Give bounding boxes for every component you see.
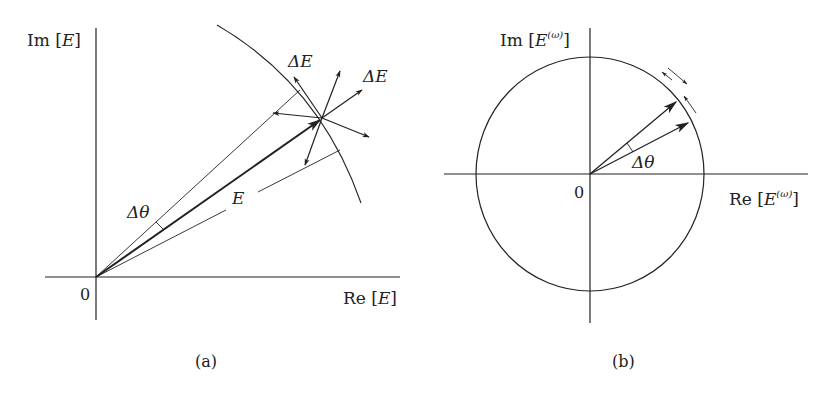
delta-arrow-left: [273, 113, 322, 118]
y-axis-label: Im [E]: [27, 30, 81, 50]
angle-mark: [156, 222, 163, 229]
angle-mark: [627, 143, 633, 152]
E-label: E: [231, 188, 245, 208]
delta-E-label-1: ΔE: [287, 51, 313, 71]
x-axis-label: Re [E(ω)]: [729, 188, 799, 209]
tangent-arrow-outer-right: [668, 68, 687, 84]
panel-a: Im [E] Re [E] 0 ΔE ΔE E Δθ (a): [27, 25, 400, 371]
delta-arrow-up: [322, 71, 340, 118]
tangent-arrow-outer-left: [662, 72, 672, 80]
delta-E-label-2: ΔE: [362, 66, 388, 86]
vector-E: [96, 120, 320, 277]
delta-theta-label: Δθ: [126, 202, 150, 222]
delta-arrow-tangent-up: [294, 77, 322, 118]
lower-bound-line-1: [96, 210, 226, 277]
origin-label: 0: [80, 285, 90, 304]
caption-b: (b): [612, 352, 635, 371]
x-axis-label: Re [E]: [343, 288, 397, 308]
delta-theta-label: Δθ: [631, 152, 655, 172]
origin-label: 0: [574, 183, 584, 202]
y-axis-label: Im [E(ω)]: [500, 29, 570, 50]
lower-bound-line-2: [258, 150, 340, 192]
figure: Im [E] Re [E] 0 ΔE ΔE E Δθ (a): [0, 0, 839, 396]
upper-bound-line: [96, 90, 300, 277]
caption-a: (a): [195, 352, 217, 371]
panel-b: Im [E(ω)] Re [E(ω)] 0 Δθ (b): [444, 28, 808, 371]
